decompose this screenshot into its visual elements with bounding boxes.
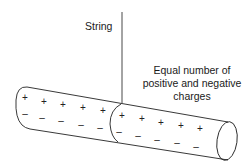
negative-charge: – xyxy=(97,122,103,133)
positive-charge: + xyxy=(22,92,28,103)
charges-label-line3: charges xyxy=(135,90,249,103)
negative-charge: – xyxy=(174,137,180,148)
positive-charge: + xyxy=(197,123,203,134)
positive-charge: + xyxy=(139,113,145,124)
right-segment-charges: + + + + + – – – – – xyxy=(116,110,203,152)
negative-charge: – xyxy=(135,130,141,141)
negative-charge: – xyxy=(39,112,45,123)
negative-charge: – xyxy=(154,134,160,145)
positive-charge: + xyxy=(100,105,106,116)
negative-charge: – xyxy=(78,119,84,130)
positive-charge: + xyxy=(178,120,184,131)
negative-charge: – xyxy=(193,141,199,152)
charges-label-line1: Equal number of xyxy=(135,64,249,77)
charges-label-line2: positive and negative xyxy=(135,77,249,90)
rod-end-cap xyxy=(214,120,239,161)
positive-charge: + xyxy=(119,110,125,121)
positive-charge: + xyxy=(80,102,86,113)
negative-charge: – xyxy=(58,115,64,126)
negative-charge: – xyxy=(116,126,122,137)
positive-charge: + xyxy=(158,117,164,128)
negative-charge: – xyxy=(22,108,28,119)
charges-label: Equal number of positive and negative ch… xyxy=(135,64,249,103)
positive-charge: + xyxy=(41,96,47,107)
positive-charge: + xyxy=(60,99,66,110)
string-label: String xyxy=(85,20,112,33)
